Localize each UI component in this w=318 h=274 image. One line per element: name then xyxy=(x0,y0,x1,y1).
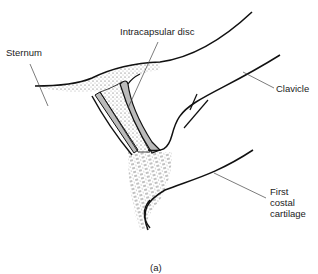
costal-leader xyxy=(214,173,266,198)
clavicle-leader xyxy=(243,72,274,88)
sternum-leader xyxy=(30,64,48,106)
label-sternum: Sternum xyxy=(6,47,42,58)
clavicle-line-2 xyxy=(184,100,208,128)
label-clavicle: Clavicle xyxy=(276,83,309,94)
clavicle-lower-outline xyxy=(148,55,280,151)
anatomy-drawing xyxy=(0,0,318,274)
label-first-costal-cartilage: First costal cartilage xyxy=(270,186,306,219)
sternum-clavicle-upper-outline xyxy=(35,12,252,86)
costal-cartilage-fill xyxy=(128,152,172,230)
label-intracapsular-disc: Intracapsular disc xyxy=(120,26,194,37)
figure-caption: (a) xyxy=(150,262,162,273)
sternoclavicular-joint-diagram: Sternum Intracapsular disc Clavicle Firs… xyxy=(0,0,318,274)
